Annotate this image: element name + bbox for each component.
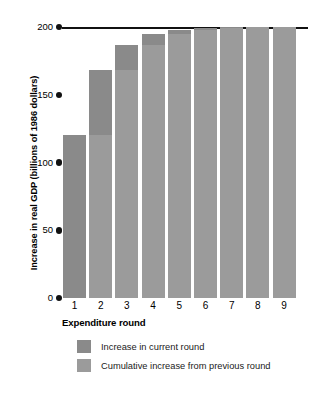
y-tick-label: 0 [48, 293, 53, 303]
bar-round-1 [63, 135, 86, 298]
legend-swatch [77, 359, 91, 372]
bar-round-3 [115, 45, 138, 298]
x-axis-ticks: 123456789 [62, 300, 308, 314]
legend-swatch [77, 340, 91, 353]
legend-label: Increase in current round [101, 342, 204, 352]
y-tick-dot-marker [56, 92, 63, 99]
legend-item-1: Increase in current round [77, 338, 313, 355]
x-tick-label-4: 4 [142, 300, 165, 311]
bar-group [62, 27, 308, 298]
y-tick-150: 150 [0, 90, 62, 100]
y-tick-100: 100 [0, 158, 62, 168]
bar-round-4 [142, 34, 165, 298]
bar-segment-cumulative [273, 27, 296, 298]
bar-round-2 [89, 70, 112, 298]
bar-segment-cumulative [142, 45, 165, 298]
bar-segment-cumulative [246, 27, 269, 298]
y-tick-dot-marker [56, 24, 63, 31]
x-tick-label-1: 1 [63, 300, 86, 311]
bar-segment-cumulative [115, 70, 138, 298]
x-tick-label-8: 8 [246, 300, 269, 311]
y-tick-dot-marker [56, 159, 63, 166]
y-tick-200: 200 [0, 22, 62, 32]
y-tick-50: 50 [0, 225, 62, 235]
x-tick-label-3: 3 [115, 300, 138, 311]
x-tick-label-2: 2 [89, 300, 112, 311]
bar-round-9 [273, 27, 296, 298]
bar-segment-current-round [89, 70, 112, 135]
x-axis-title: Expenditure round [62, 317, 308, 328]
plot-area [62, 27, 308, 298]
y-tick-label: 100 [37, 158, 53, 168]
y-tick-0: 0 [0, 293, 62, 303]
y-tick-label: 50 [42, 225, 53, 235]
chart-legend: Increase in current roundCumulative incr… [77, 338, 313, 376]
bar-round-6 [194, 28, 217, 298]
x-tick-label-9: 9 [273, 300, 296, 311]
chart-figure: Increase in real GDP (billions of 1986 d… [0, 0, 313, 398]
bar-segment-current-round [115, 45, 138, 71]
y-tick-dot-marker [56, 227, 63, 234]
bar-round-7 [220, 27, 243, 298]
bar-segment-cumulative [194, 30, 217, 298]
bar-segment-cumulative [168, 34, 191, 298]
legend-item-2: Cumulative increase from previous round [77, 357, 313, 374]
x-tick-label-7: 7 [220, 300, 243, 311]
x-tick-label-6: 6 [194, 300, 217, 311]
bar-segment-current-round [142, 34, 165, 45]
legend-label: Cumulative increase from previous round [101, 361, 271, 371]
x-tick-label-5: 5 [168, 300, 191, 311]
bar-round-8 [246, 27, 269, 298]
y-tick-label: 200 [37, 22, 53, 32]
bar-segment-cumulative [89, 135, 112, 298]
y-tick-label: 150 [37, 90, 53, 100]
bar-segment-current-round [63, 135, 86, 298]
bar-segment-cumulative [220, 28, 243, 298]
y-axis-title: Increase in real GDP (billions of 1986 d… [29, 51, 39, 295]
bar-round-5 [168, 30, 191, 298]
